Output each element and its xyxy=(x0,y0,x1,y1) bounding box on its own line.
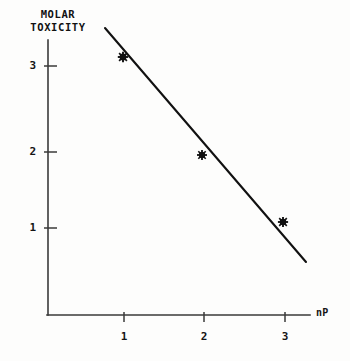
chart-figure: MOLARTOXICITY xyxy=(0,0,350,361)
axes-group xyxy=(47,40,310,315)
trend-line xyxy=(105,28,306,262)
y-tick-label-1: 1 xyxy=(18,221,36,234)
x-tick-label-1: 1 xyxy=(115,330,133,343)
plot-area xyxy=(0,0,350,361)
y-tick-label-3: 3 xyxy=(18,59,36,72)
data-points-group xyxy=(118,52,288,227)
x-tick-label-2: 2 xyxy=(195,330,213,343)
x-axis-label: nP xyxy=(316,307,329,318)
y-tick-label-2: 2 xyxy=(18,145,36,158)
x-tick-marks xyxy=(124,312,285,322)
data-point-marker xyxy=(278,217,288,227)
y-tick-marks xyxy=(44,66,57,228)
x-tick-label-3: 3 xyxy=(276,330,294,343)
data-point-marker xyxy=(118,52,128,62)
data-point-marker xyxy=(197,150,207,160)
